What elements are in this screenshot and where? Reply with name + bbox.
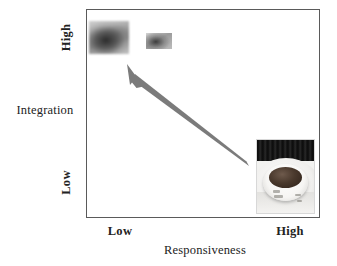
y-axis-title: Integration — [6, 103, 84, 118]
x-tick-label-high: High — [268, 224, 312, 239]
coffee-saucer-mark-1 — [273, 190, 280, 193]
integrated-product-photo — [89, 21, 129, 54]
x-axis-title: Responsiveness — [130, 243, 280, 258]
secondary-product-photo — [146, 33, 172, 49]
coffee-saucer-mark-3 — [295, 194, 301, 196]
coffee-cup-photo — [256, 139, 315, 214]
x-tick-label-low: Low — [100, 224, 140, 239]
coffee-saucer-mark-2 — [274, 195, 283, 198]
coffee-liquid — [269, 167, 302, 188]
figure-canvas: Integration High Low Low High Responsive… — [0, 0, 337, 266]
coffee-saucer-mark-4 — [297, 200, 302, 202]
y-tick-label-high: High — [59, 16, 74, 60]
y-tick-label-low: Low — [59, 161, 74, 205]
